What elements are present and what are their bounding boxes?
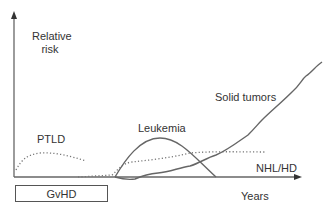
x-axis-label: Years: [241, 190, 269, 203]
leukemia-label: Leukemia: [138, 122, 186, 135]
y-axis-label: Relative risk: [32, 30, 68, 56]
y-axis-label-line2: risk: [32, 43, 68, 56]
ptld-curve: [16, 153, 86, 170]
nhl-hd-curve: [78, 152, 265, 177]
y-axis-arrow-icon: [11, 11, 17, 19]
ptld-label: PTLD: [37, 133, 65, 146]
nhl-hd-label: NHL/HD: [256, 162, 297, 175]
solid-tumors-label: Solid tumors: [215, 91, 276, 104]
gvhd-box: GvHD: [15, 185, 108, 202]
y-axis-label-line1: Relative: [32, 30, 68, 43]
gvhd-label: GvHD: [47, 188, 77, 200]
